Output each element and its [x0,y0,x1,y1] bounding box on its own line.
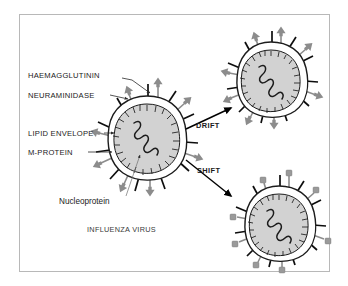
shift-virus-particle [230,170,331,273]
label-haemagglutinin: HAEMAGGLUTININ [28,71,100,80]
capsid-drift [241,50,300,112]
label-nucleoprotein: Nucleoprotein [59,197,110,206]
capsid-parent [114,104,180,173]
caption-influenza-virus: INFLUENZA VIRUS [87,225,156,234]
label-shift: SHIFT [197,166,220,175]
influenza-diagram: HAEMAGGLUTININ NEURAMINIDASE LIPID ENVEL… [0,0,348,286]
label-m-protein: M-PROTEIN [28,148,73,157]
drift-virus-particle [219,26,325,129]
capsid-shift [249,194,308,256]
figure-root: HAEMAGGLUTININ NEURAMINIDASE LIPID ENVEL… [0,0,348,286]
label-neuraminidase: NEURAMINIDASE [28,91,95,100]
parent-virus-particle [89,77,205,196]
label-lipid-envelope: LIPID ENVELOPE [28,129,94,138]
label-drift: DRIFT [196,121,220,130]
leader-neuraminidase [110,95,128,99]
